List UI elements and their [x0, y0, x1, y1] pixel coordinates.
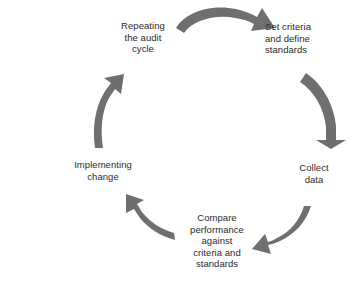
- audit-cycle-diagram: Repeating the audit cycle Set criteria a…: [0, 0, 360, 292]
- arrow-left-icon: [94, 74, 124, 148]
- arrow-bottom-right-icon: [252, 206, 311, 254]
- arrow-top-icon: [176, 7, 275, 33]
- node-label-repeating-audit-cycle: Repeating the audit cycle: [104, 20, 182, 55]
- node-label-collect-data: Collect data: [281, 162, 347, 185]
- node-label-implementing-change: Implementing change: [58, 159, 148, 182]
- node-label-set-criteria: Set criteria and define standards: [265, 21, 349, 56]
- arrow-bottom-left-icon: [126, 194, 175, 240]
- arrow-right-icon: [300, 73, 346, 149]
- node-label-compare-performance: Compare performance against criteria and…: [178, 212, 256, 270]
